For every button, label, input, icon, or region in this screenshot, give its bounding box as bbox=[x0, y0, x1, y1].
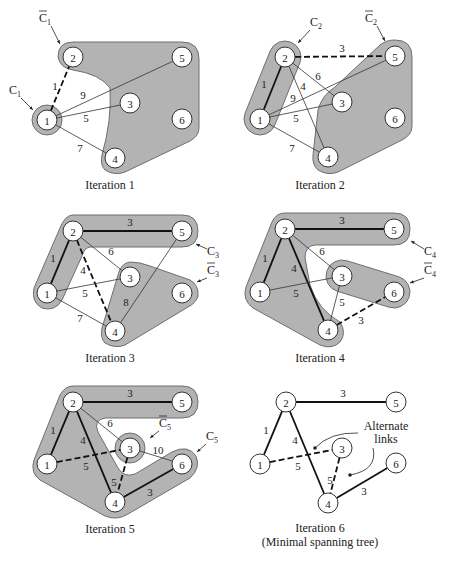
panel-caption: Iteration 2 bbox=[295, 178, 345, 192]
edge-2-3 bbox=[293, 63, 334, 96]
panels-group: 1957123456C1C1Iteration 13164957123456C2… bbox=[9, 11, 436, 549]
node-label: 6 bbox=[392, 113, 398, 125]
edge-weight-1-3: 5 bbox=[293, 287, 299, 299]
node-label: 4 bbox=[325, 152, 331, 164]
node-label: 5 bbox=[179, 226, 185, 238]
node-label: 2 bbox=[70, 226, 76, 238]
panel-iteration-5: 314655103123456C5C5Iteration 5 bbox=[33, 386, 218, 536]
node-label: 2 bbox=[283, 397, 289, 409]
node-2: 2 bbox=[276, 392, 296, 412]
cut-label: C2 bbox=[298, 15, 322, 43]
node-label: 3 bbox=[127, 443, 133, 455]
cut-label-text: C1 bbox=[9, 83, 21, 99]
node-5: 5 bbox=[386, 392, 406, 412]
mst-iterations-diagram: 1957123456C1C1Iteration 13164957123456C2… bbox=[0, 0, 451, 561]
cut-label: C4 bbox=[411, 241, 436, 260]
edge-weight-1-3: 5 bbox=[83, 460, 89, 472]
node-1: 1 bbox=[37, 110, 57, 130]
node-4: 4 bbox=[318, 147, 338, 167]
edge-weight-1-4: 7 bbox=[289, 142, 295, 154]
curved-arrow bbox=[350, 448, 374, 475]
node-5: 5 bbox=[172, 392, 192, 412]
node-label: 4 bbox=[112, 497, 118, 509]
node-4: 4 bbox=[105, 148, 125, 168]
edge-weight-1-5: 9 bbox=[290, 92, 296, 104]
edge-weight-4-6: 3 bbox=[358, 314, 364, 326]
node-6: 6 bbox=[385, 108, 405, 128]
node-label: 3 bbox=[127, 98, 133, 110]
node-6: 6 bbox=[172, 109, 192, 129]
cut-complement-label: C3 bbox=[197, 263, 219, 282]
node-label: 1 bbox=[257, 287, 263, 299]
edge-weight-1-2: 1 bbox=[52, 80, 58, 92]
edge-1-3 bbox=[270, 450, 332, 462]
node-label: 3 bbox=[339, 271, 345, 283]
edge-weight-3-4: 5 bbox=[339, 296, 345, 308]
node-2: 2 bbox=[63, 221, 83, 241]
edge-weight-2-1: 1 bbox=[262, 252, 268, 264]
node-label: 4 bbox=[325, 325, 331, 337]
node-label: 1 bbox=[44, 459, 50, 471]
node-1: 1 bbox=[37, 283, 57, 303]
edge-weight-4-6: 3 bbox=[147, 486, 153, 498]
node-label: 3 bbox=[127, 272, 133, 284]
node-label: 1 bbox=[257, 114, 263, 126]
node-label: 1 bbox=[44, 288, 50, 300]
panel-subcaption: (Minimal spanning tree) bbox=[262, 535, 379, 549]
cut-label-text: C2 bbox=[310, 15, 322, 31]
annotation-text: Alternate bbox=[364, 419, 409, 433]
node-3: 3 bbox=[120, 267, 140, 287]
cut-label: C3 bbox=[196, 244, 219, 260]
edge-weight-1-5: 9 bbox=[80, 89, 86, 101]
node-3: 3 bbox=[120, 93, 140, 113]
panel-caption: Iteration 4 bbox=[295, 351, 345, 365]
node-2: 2 bbox=[63, 47, 83, 67]
node-2: 2 bbox=[63, 392, 83, 412]
node-label: 6 bbox=[393, 458, 399, 470]
edge-2-4 bbox=[77, 240, 111, 322]
cut-label: C5 bbox=[197, 429, 218, 452]
node-4: 4 bbox=[105, 321, 125, 341]
node-6: 6 bbox=[172, 283, 192, 303]
node-5: 5 bbox=[384, 219, 404, 239]
panel-iteration-6: 314553123456AlternatelinksIteration 6(Mi… bbox=[250, 387, 408, 549]
node-1: 1 bbox=[250, 282, 270, 302]
node-label: 4 bbox=[112, 153, 118, 165]
edge-weight-3-4: 5 bbox=[111, 476, 117, 488]
node-label: 6 bbox=[179, 114, 185, 126]
edge-weight-2-1: 1 bbox=[50, 424, 56, 436]
edge-weight-2-1: 1 bbox=[50, 252, 56, 264]
cut-complement-label: C5 bbox=[150, 416, 171, 438]
edge-weight-2-3: 6 bbox=[319, 245, 325, 257]
node-6: 6 bbox=[384, 282, 404, 302]
node-3: 3 bbox=[120, 438, 140, 458]
arrowhead-icon bbox=[410, 280, 414, 283]
cut-label-text: C3 bbox=[207, 244, 219, 260]
node-1: 1 bbox=[37, 454, 57, 474]
edge-weight-5-4: 8 bbox=[123, 296, 129, 308]
node-label: 6 bbox=[391, 287, 397, 299]
node-2: 2 bbox=[275, 219, 295, 239]
edge-weight-1-4: 7 bbox=[77, 142, 83, 154]
node-6: 6 bbox=[386, 453, 406, 473]
edge-weight-2-5: 3 bbox=[127, 216, 133, 228]
arrowhead-icon bbox=[197, 279, 201, 282]
cut-label-text: C5 bbox=[206, 429, 218, 445]
edge-weight-2-1: 1 bbox=[263, 424, 269, 436]
edge-weight-1-3: 5 bbox=[293, 112, 299, 124]
node-label: 5 bbox=[392, 51, 398, 63]
node-4: 4 bbox=[105, 492, 125, 512]
edge-weight-2-4: 4 bbox=[80, 264, 86, 276]
node-label: 4 bbox=[325, 498, 331, 510]
panel-iteration-1: 1957123456C1C1Iteration 1 bbox=[9, 11, 199, 192]
node-2: 2 bbox=[275, 47, 295, 67]
panel-caption: Iteration 5 bbox=[85, 522, 135, 536]
panel-caption: Iteration 3 bbox=[85, 351, 135, 365]
panel-iteration-2: 3164957123456C2C2Iteration 2 bbox=[244, 11, 412, 192]
edge-weight-2-4: 4 bbox=[300, 80, 306, 92]
node-5: 5 bbox=[172, 221, 192, 241]
edge-weight-3-4: 5 bbox=[327, 474, 333, 486]
cut-label-text: C4 bbox=[424, 244, 436, 260]
edge-weight-2-5: 3 bbox=[339, 214, 345, 226]
node-label: 2 bbox=[70, 52, 76, 64]
